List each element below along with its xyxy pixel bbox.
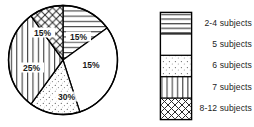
pie-label-6-subjects: 30%	[58, 92, 75, 102]
legend-label-8-12-subjects: 8-12 subjects	[200, 103, 252, 113]
pie-label-5-subjects: 15%	[82, 60, 99, 70]
legend-label-7-subjects: 7 subjects	[212, 82, 252, 92]
legend-label-list: 2-4 subjects 5 subjects 6 subjects 7 sub…	[194, 0, 254, 127]
legend-swatch-6-subjects[interactable]	[161, 55, 190, 76]
legend-label-6-subjects: 6 subjects	[212, 60, 252, 70]
legend-label-2-4-subjects: 2-4 subjects	[204, 18, 252, 28]
legend-swatch-7-subjects[interactable]	[161, 77, 190, 98]
legend-label-5-subjects: 5 subjects	[212, 39, 252, 49]
legend-swatch-8-12-subjects[interactable]	[161, 98, 190, 119]
legend-swatch-5-subjects[interactable]	[161, 34, 190, 55]
legend-swatch-column	[161, 13, 192, 120]
legend-swatch-2-4-subjects[interactable]	[161, 13, 190, 34]
figure-root: 15% 15% 30% 25% 15% 2-4 subjects 5 subje	[0, 0, 254, 127]
pie-label-8-12-subjects: 15%	[34, 28, 51, 38]
pie-label-7-subjects: 25%	[23, 63, 40, 73]
pie-label-2-4-subjects: 15%	[70, 32, 87, 42]
